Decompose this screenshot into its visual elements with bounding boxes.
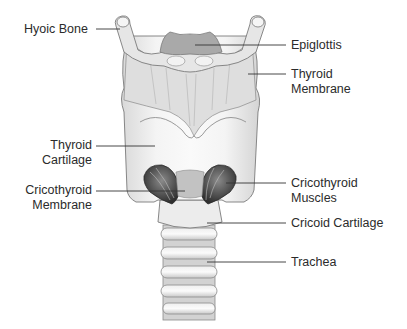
label-line: Thyroid	[42, 138, 92, 153]
label-line: Membrane	[25, 198, 92, 213]
cricothyroid-membrane-shape	[176, 170, 204, 198]
label-line: Cartilage	[42, 153, 92, 168]
label-cricothyroid-muscles: Cricothyroid Muscles	[291, 176, 358, 206]
label-line: Muscles	[291, 191, 358, 206]
trachea-shape	[161, 225, 217, 320]
label-thyroid-cartilage: Thyroid Cartilage	[42, 138, 92, 168]
cricoid-cartilage-shape	[158, 200, 222, 228]
label-line: Membrane	[291, 82, 351, 97]
label-cricoid-cartilage: Cricoid Cartilage	[291, 216, 383, 231]
label-hyoid-bone: Hyoic Bone	[24, 22, 88, 37]
label-thyroid-membrane: Thyroid Membrane	[291, 67, 351, 97]
label-trachea: Trachea	[291, 255, 336, 270]
label-cricothyroid-membrane: Cricothyroid Membrane	[25, 183, 92, 213]
label-line: Thyroid	[291, 67, 351, 82]
label-epiglottis: Epiglottis	[291, 38, 342, 53]
label-line: Cricothyroid	[25, 183, 92, 198]
label-line: Cricothyroid	[291, 176, 358, 191]
epiglottis-shape	[160, 32, 222, 55]
